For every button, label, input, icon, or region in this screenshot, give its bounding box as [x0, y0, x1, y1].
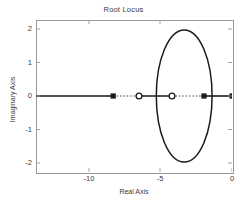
root-locus-figure: Root Locus [0, 0, 247, 202]
xtick-label: -10 [74, 174, 104, 183]
pole-marker-square [201, 93, 206, 98]
plot-canvas [36, 20, 232, 172]
zero-marker-circle [136, 93, 142, 99]
x-axis-label: Real Axis [36, 188, 232, 195]
pole-marker-square [111, 93, 116, 98]
xtick-label: 0 [217, 174, 247, 183]
ytick-label: -2 [12, 158, 32, 167]
y-axis-label: Imaginary Axis [9, 60, 16, 140]
xtick-label: -5 [145, 174, 175, 183]
ytick-label: 2 [12, 24, 32, 33]
zero-marker-circle [169, 93, 175, 99]
chart-title: Root Locus [0, 5, 247, 14]
